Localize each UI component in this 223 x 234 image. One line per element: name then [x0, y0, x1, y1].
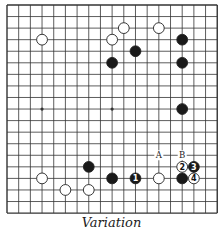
black-stone [83, 161, 94, 172]
white-stone [107, 34, 118, 45]
black-stone [107, 57, 118, 68]
white-stone [153, 23, 164, 34]
white-stone [37, 173, 48, 184]
go-board: AB 1234 [0, 0, 223, 215]
star-point [111, 107, 114, 110]
move-number: 3 [191, 163, 197, 172]
white-stone [60, 185, 71, 196]
diagram-caption: Variation [0, 215, 223, 230]
white-stone [37, 34, 48, 45]
point-marker-a: A [155, 150, 163, 160]
black-stone [177, 34, 188, 45]
point-marker-b: B [179, 150, 185, 160]
black-stone [177, 104, 188, 115]
black-stone [130, 46, 141, 57]
white-stone [83, 185, 94, 196]
black-stone [177, 57, 188, 68]
move-number: 4 [191, 174, 197, 183]
move-number: 1 [133, 174, 139, 183]
star-point [40, 107, 43, 110]
black-stone [107, 173, 118, 184]
white-stone [118, 23, 129, 34]
move-number: 2 [179, 163, 185, 172]
white-stone [153, 173, 164, 184]
black-stone [177, 173, 188, 184]
